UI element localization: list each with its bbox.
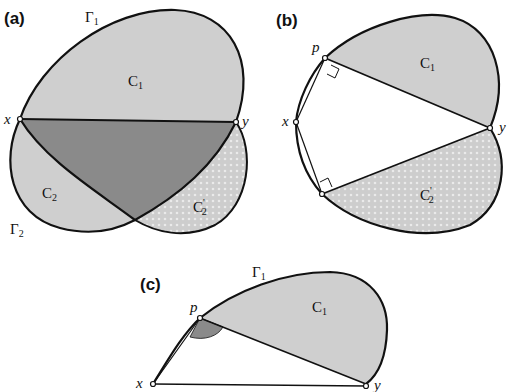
point-p-c: [198, 316, 203, 321]
point-q-b: [320, 192, 325, 197]
region-c1-b: [325, 15, 499, 128]
label-y-a: y: [240, 113, 249, 129]
label-x-a: x: [3, 111, 11, 127]
chord-xp-b: [296, 58, 325, 122]
chord-xq-b: [296, 122, 322, 194]
label-gamma2-a: Γ2: [10, 221, 24, 239]
point-x-a: [18, 117, 23, 122]
panel-a: (a) x y Γ1 Γ2 C1 C2 C'2: [3, 9, 249, 239]
label-gamma1-c: Γ1: [252, 264, 266, 282]
panel-label-b: (b): [276, 11, 298, 30]
panel-label-a: (a): [4, 9, 25, 28]
right-angle-mark-top-b: [327, 65, 339, 78]
region-c1-c: [200, 272, 387, 384]
label-y-b: y: [497, 119, 506, 135]
label-c2prime-a: C'2: [193, 197, 207, 217]
chord-xy-c: [153, 384, 366, 386]
region-c2prime-b: [322, 128, 502, 233]
label-x-b: x: [281, 113, 289, 129]
label-p-c: p: [189, 299, 198, 315]
label-y-c: y: [372, 377, 381, 392]
panel-c: (c) p x y Γ1 C1: [135, 264, 387, 392]
label-c2prime-b: C'2: [420, 185, 434, 205]
panel-label-c: (c): [140, 275, 161, 294]
right-angle-mark-bottom-b: [320, 178, 332, 187]
point-y-a: [234, 120, 239, 125]
figure-canvas: (a) x y Γ1 Γ2 C1 C2 C'2 (b) p x y C1 C'2: [0, 0, 510, 392]
label-gamma1-a: Γ1: [85, 9, 99, 27]
label-p-b: p: [311, 39, 320, 55]
point-p-b: [323, 56, 328, 61]
point-y-b: [488, 126, 493, 131]
point-x-c: [151, 382, 156, 387]
point-x-b: [294, 120, 299, 125]
panel-b: (b) p x y C1 C'2: [276, 11, 506, 233]
chord-xp-c: [153, 318, 200, 384]
label-x-c: x: [135, 375, 143, 391]
point-y-c: [364, 384, 369, 389]
